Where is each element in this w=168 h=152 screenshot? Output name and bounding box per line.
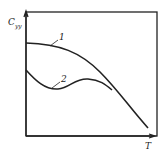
- chart-plot: [0, 0, 168, 152]
- y-axis-label: Cyy: [8, 18, 22, 29]
- x-axis-arrow: [26, 134, 155, 138]
- leader-2: [52, 82, 60, 88]
- curve-1-label: 1: [59, 33, 65, 42]
- leader-1: [50, 40, 58, 46]
- curve-2: [26, 70, 112, 90]
- plot-frame: [26, 12, 157, 136]
- y-axis-arrow: [24, 11, 28, 136]
- x-axis-label: T: [145, 142, 151, 151]
- curve-2-label: 2: [61, 75, 67, 84]
